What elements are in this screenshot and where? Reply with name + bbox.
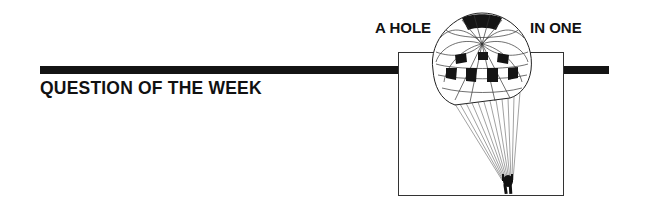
section-heading: QUESTION OF THE WEEK [40, 78, 262, 99]
title-right: IN ONE [530, 19, 582, 36]
rule-bar-left [40, 66, 398, 74]
rule-bar-right [563, 66, 609, 74]
illustration-frame [398, 52, 564, 196]
title-left: A HOLE [375, 19, 431, 36]
